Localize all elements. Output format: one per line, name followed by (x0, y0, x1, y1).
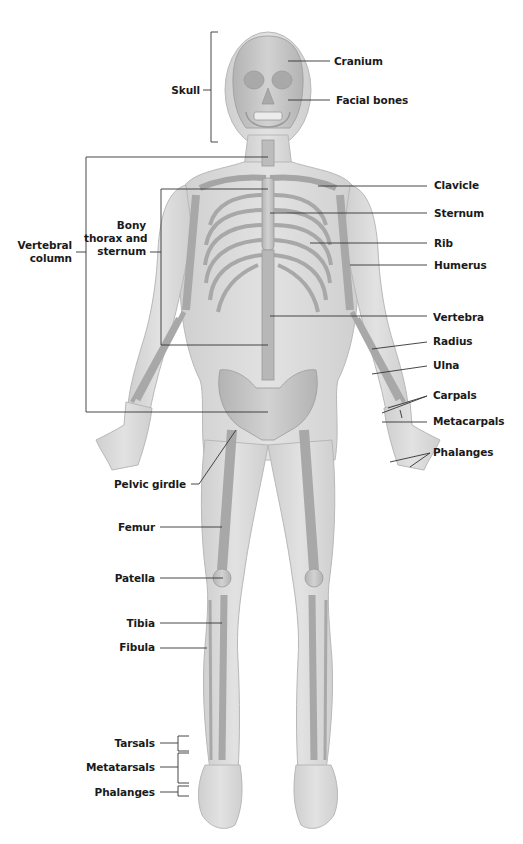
left-orbit (244, 71, 264, 89)
label-metacarpals: Metacarpals (433, 415, 505, 428)
label-humerus: Humerus (434, 259, 487, 272)
label-metatarsals: Metatarsals (60, 761, 155, 774)
right-orbit (272, 71, 292, 89)
label-carpals: Carpals (433, 389, 477, 402)
label-tibia: Tibia (80, 617, 155, 630)
label-cranium: Cranium (334, 55, 383, 68)
skeleton-diagram: Skull Cranium Facial bones Vertebral col… (0, 0, 523, 844)
label-facial-bones: Facial bones (336, 94, 408, 107)
label-hand-phalanges: Phalanges (433, 446, 493, 459)
label-pelvic-girdle: Pelvic girdle (80, 478, 186, 491)
label-foot-phalanges: Phalanges (60, 786, 155, 799)
label-rib: Rib (434, 237, 453, 250)
teeth (254, 112, 282, 120)
label-clavicle: Clavicle (434, 179, 479, 192)
label-tarsals: Tarsals (60, 737, 155, 750)
label-radius: Radius (433, 335, 472, 348)
label-skull: Skull (162, 84, 200, 97)
label-sternum: Sternum (434, 207, 484, 220)
label-femur: Femur (80, 521, 155, 534)
label-bony-thorax: Bony thorax and sternum (84, 219, 146, 258)
label-fibula: Fibula (80, 641, 155, 654)
label-ulna: Ulna (433, 359, 459, 372)
label-patella: Patella (80, 572, 155, 585)
label-vertebral-column: Vertebral column (10, 239, 72, 265)
skeleton (132, 36, 404, 760)
label-vertebra: Vertebra (433, 311, 484, 324)
